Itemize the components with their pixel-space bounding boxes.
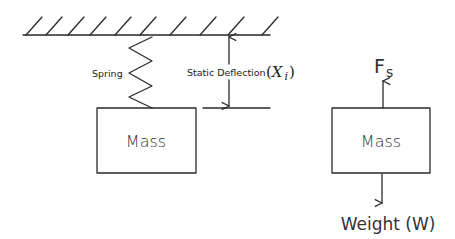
spring-label: Spring [92,68,123,79]
right-mass-label: Mass [361,132,401,151]
spring-force-label: Fs [374,55,393,80]
spring-mass-diagram: Spring Static Deflection (Xi) Mass Fs Ma… [0,0,455,239]
free-body-diagram: Fs Mass Weight (W) [332,55,435,234]
support-hatching [26,17,278,35]
static-deflection-label: Static Deflection [187,67,266,78]
deflection-symbol: (Xi) [266,63,295,83]
weight-label: Weight (W) [341,214,436,234]
left-mass-label: Mass [126,132,166,151]
spring-zigzag [129,37,152,108]
static-deflection-dimension: Static Deflection (Xi) [187,37,295,108]
left-mass-block: Mass [97,108,196,173]
fixed-support [23,17,278,35]
